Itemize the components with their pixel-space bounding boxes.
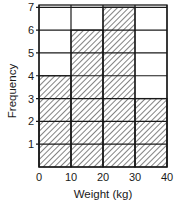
- x-tick-label: 30: [129, 171, 141, 183]
- x-tick-label: 10: [65, 171, 77, 183]
- y-tick-label: 6: [28, 24, 34, 36]
- x-tick-label: 20: [97, 171, 109, 183]
- y-tick-label: 7: [28, 1, 34, 13]
- bar-30-40: [135, 99, 167, 167]
- x-tick-label: 0: [36, 171, 42, 183]
- bar-20-30: [103, 7, 135, 167]
- y-tick-label: 2: [28, 115, 34, 127]
- y-tick-label: 5: [28, 47, 34, 59]
- y-tick-label: 1: [28, 138, 34, 150]
- histogram-chart: 1234567 010203040 Weight (kg) Frequency: [0, 0, 177, 202]
- x-axis-ticks: 010203040: [36, 171, 173, 183]
- y-tick-label: 4: [28, 70, 34, 82]
- y-tick-label: 3: [28, 93, 34, 105]
- y-axis-ticks: 1234567: [28, 1, 34, 150]
- x-axis-label: Weight (kg): [74, 188, 133, 200]
- y-axis-label: Frequency: [6, 64, 18, 119]
- x-tick-label: 40: [161, 171, 173, 183]
